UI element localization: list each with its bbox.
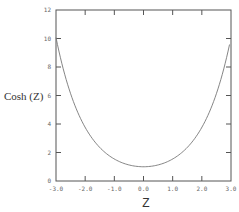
- x-axis-title: Z: [142, 196, 149, 210]
- cosh-chart: 024681012 -3.0-2.0-1.00.01.02.03.0 Cosh …: [0, 0, 239, 212]
- x-tick-label: -2.0: [78, 185, 93, 192]
- x-tick-label: -3.0: [49, 185, 64, 192]
- x-tick-label: -1.0: [107, 185, 122, 192]
- y-tick-label: 4: [47, 120, 51, 127]
- x-tick-label: 2.0: [196, 185, 207, 192]
- y-tick-label: 10: [44, 35, 52, 42]
- x-tick-label: 3.0: [226, 185, 237, 192]
- x-tick-labels: -3.0-2.0-1.00.01.02.03.0: [49, 185, 237, 192]
- cosh-curve: [56, 38, 230, 167]
- y-tick-label: 0: [47, 177, 51, 184]
- plot-frame: [56, 10, 231, 181]
- y-tick-label: 2: [47, 149, 51, 156]
- y-tick-label: 12: [44, 6, 52, 13]
- y-tick-labels: 024681012: [44, 6, 52, 184]
- axis-ticks: [56, 10, 231, 181]
- y-axis-title: Cosh (Z): [4, 90, 44, 103]
- y-tick-label: 8: [47, 63, 51, 70]
- y-tick-label: 6: [47, 92, 51, 99]
- x-tick-label: 0.0: [138, 185, 149, 192]
- x-tick-label: 1.0: [167, 185, 178, 192]
